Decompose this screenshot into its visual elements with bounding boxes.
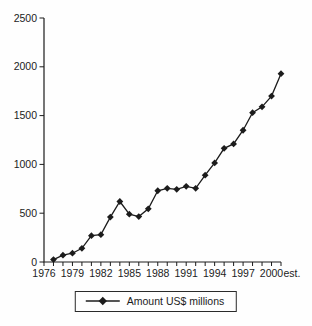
axes <box>44 18 281 262</box>
y-axis-tick-label: 500 <box>19 207 37 219</box>
x-axis-tick-label: 1997 <box>231 267 255 279</box>
data-point <box>249 109 256 116</box>
x-axis-tick-label: 2000 <box>260 267 284 279</box>
data-point <box>164 185 171 192</box>
data-point <box>97 231 104 238</box>
x-axis-tick-label: 1988 <box>146 267 170 279</box>
x-axis-est-label: est. <box>284 267 301 279</box>
y-axis-tick-label: 2500 <box>14 12 38 24</box>
y-axis-tick-label: 0 <box>31 256 37 268</box>
data-point <box>173 186 180 193</box>
legend-series-marker-icon <box>85 296 121 306</box>
x-axis-tick-label: 1994 <box>203 267 227 279</box>
x-axis-tick-label: 1979 <box>61 267 85 279</box>
data-point <box>154 187 161 194</box>
y-axis-tick-label: 1000 <box>14 158 38 170</box>
legend-label: Amount US$ millions <box>127 295 224 307</box>
data-series-line <box>53 74 281 260</box>
chart-panel: 0500100015002000250019761979198219851988… <box>0 0 312 326</box>
x-axis-tick-label: 1985 <box>118 267 142 279</box>
y-axis-tick-label: 1500 <box>14 109 38 121</box>
data-point <box>278 70 285 77</box>
data-point <box>183 183 190 190</box>
data-point <box>107 214 114 221</box>
data-point <box>69 250 76 257</box>
legend-box: Amount US$ millions <box>75 291 237 312</box>
y-axis-tick-label: 2000 <box>14 60 38 72</box>
x-axis-tick-label: 1982 <box>89 267 113 279</box>
x-axis-tick-label: 1991 <box>175 267 199 279</box>
line-chart: 0500100015002000250019761979198219851988… <box>0 0 312 326</box>
data-point <box>221 145 228 152</box>
data-point <box>60 252 67 259</box>
x-axis-tick-label: 1976 <box>32 267 56 279</box>
